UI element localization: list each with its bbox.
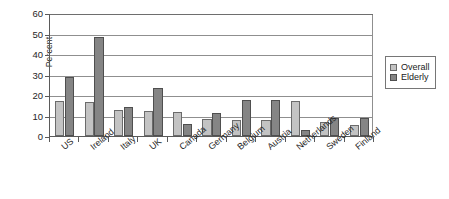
bar-ireland-overall [85, 102, 94, 136]
y-tick-label-20: 20 [17, 91, 43, 101]
bar-uk-overall [144, 111, 153, 136]
bar-group [50, 14, 79, 136]
bar-group [286, 14, 315, 136]
y-tick-label-0: 0 [17, 132, 43, 142]
bar-group [345, 14, 374, 136]
bar-uk-elderly [153, 88, 162, 136]
bar-group [79, 14, 108, 136]
x-tick-mark [78, 137, 79, 142]
bar-italy-elderly [124, 107, 133, 136]
bar-canada-overall [173, 112, 182, 136]
x-tick-mark [167, 137, 168, 142]
bar-us-elderly [65, 77, 74, 136]
bar-netherlands-overall [291, 101, 300, 136]
overall-swatch-icon [390, 64, 397, 71]
bar-us-overall [55, 101, 64, 136]
bar-group [256, 14, 285, 136]
chart-legend: Overall Elderly [385, 56, 436, 89]
bar-group [109, 14, 138, 136]
bar-ireland-elderly [94, 37, 103, 136]
legend-item-elderly: Elderly [390, 73, 430, 82]
legend-item-overall: Overall [390, 63, 430, 72]
legend-label-overall: Overall [401, 63, 430, 72]
y-tick-label-50: 50 [17, 30, 43, 40]
x-tick-mark [49, 137, 50, 142]
y-tick-label-40: 40 [17, 50, 43, 60]
elderly-swatch-icon [390, 74, 397, 81]
legend-label-elderly: Elderly [401, 73, 429, 82]
y-tick-label-10: 10 [17, 112, 43, 122]
bar-chart: Percent 6050403020100 USIrelandItalyUKCa… [0, 0, 449, 199]
y-tick-label-30: 30 [17, 71, 43, 81]
bar-austria-elderly [271, 100, 280, 136]
bar-group [138, 14, 167, 136]
bar-italy-overall [114, 110, 123, 136]
bar-group [168, 14, 197, 136]
y-tick-label-60: 60 [17, 9, 43, 19]
bar-group [227, 14, 256, 136]
bar-group [197, 14, 226, 136]
x-tick-mark [137, 137, 138, 142]
